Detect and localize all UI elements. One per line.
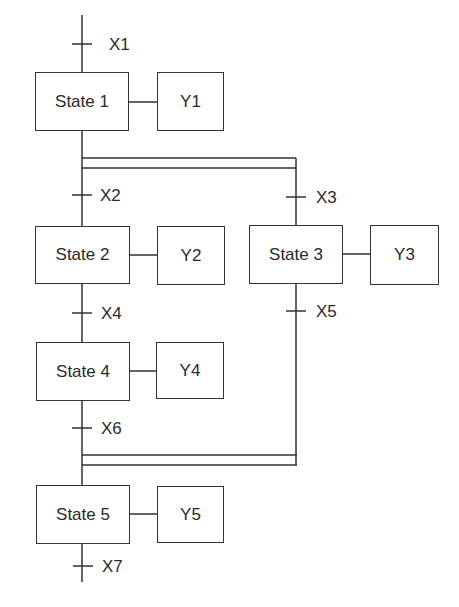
state-1-box: State 1 bbox=[35, 72, 129, 131]
action-y3-box: Y3 bbox=[370, 225, 439, 285]
transition-x2-label: X2 bbox=[100, 187, 121, 204]
transition-x7-label: X7 bbox=[102, 558, 123, 575]
sfc-diagram: State 1 Y1 State 2 Y2 State 3 Y3 State 4… bbox=[0, 0, 459, 607]
transition-x1-label: X1 bbox=[109, 36, 130, 53]
transition-x4-label: X4 bbox=[101, 305, 122, 322]
transition-x6-label: X6 bbox=[101, 420, 122, 437]
action-y2-box: Y2 bbox=[157, 226, 225, 285]
state-2-box: State 2 bbox=[35, 226, 130, 284]
action-y1-box: Y1 bbox=[157, 72, 224, 131]
action-y5-box: Y5 bbox=[157, 486, 224, 543]
state-4-box: State 4 bbox=[36, 342, 130, 401]
state-5-box: State 5 bbox=[36, 485, 130, 544]
action-y4-box: Y4 bbox=[156, 342, 224, 399]
transition-x3-label: X3 bbox=[316, 189, 337, 206]
transition-x5-label: X5 bbox=[316, 303, 337, 320]
state-3-box: State 3 bbox=[249, 225, 343, 284]
